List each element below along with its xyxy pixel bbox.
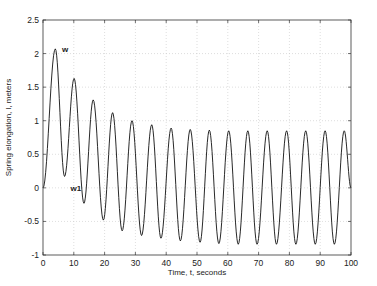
- x-tick-label: 30: [131, 258, 141, 268]
- chart: 0102030405060708090100 -1-0.500.511.522.…: [0, 0, 377, 286]
- x-tick-label: 100: [344, 258, 358, 268]
- annotation-w: w: [61, 45, 69, 54]
- y-tick-label: -1: [31, 250, 39, 260]
- x-axis-label: Time, t, seconds: [168, 268, 226, 277]
- y-tick-label: 0: [34, 183, 39, 193]
- x-tick-labels: 0102030405060708090100: [41, 258, 359, 268]
- y-tick-label: 1.5: [27, 82, 39, 92]
- x-tick-label: 60: [223, 258, 233, 268]
- y-tick-label: 2.5: [27, 15, 39, 25]
- x-tick-label: 70: [254, 258, 264, 268]
- x-tick-label: 50: [192, 258, 202, 268]
- y-tick-label: -0.5: [24, 216, 39, 226]
- y-axis-label: Spring elongation, l, meters: [4, 79, 13, 176]
- x-tick-label: 90: [315, 258, 325, 268]
- x-tick-label: 80: [285, 258, 295, 268]
- x-tick-label: 40: [161, 258, 171, 268]
- y-tick-labels: -1-0.500.511.522.5: [24, 15, 39, 260]
- y-tick-label: 2: [34, 49, 39, 59]
- x-tick-label: 0: [41, 258, 46, 268]
- y-tick-label: 0.5: [27, 149, 39, 159]
- y-tick-label: 1: [34, 116, 39, 126]
- annotation-w1: w1: [69, 184, 81, 193]
- x-tick-label: 10: [69, 258, 79, 268]
- x-tick-label: 20: [100, 258, 110, 268]
